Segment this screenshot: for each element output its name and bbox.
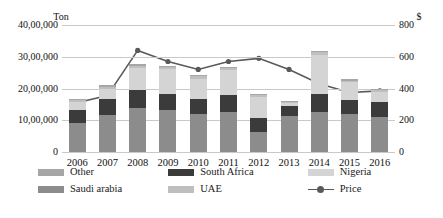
- bar-segment-uae: [341, 81, 358, 83]
- bar-segment-saudi-arabia: [371, 117, 388, 152]
- legend-label-south-africa: South Africa: [200, 166, 253, 178]
- bar-group: [281, 25, 298, 152]
- bar-segment-south-africa: [190, 99, 207, 114]
- bar-segment-other: [371, 89, 388, 90]
- legend-label-price: Price: [340, 183, 362, 195]
- bar-segment-saudi-arabia: [341, 114, 358, 152]
- bar-segment-south-africa: [341, 100, 358, 114]
- legend-swatch-other: [38, 169, 64, 176]
- bar-segment-uae: [99, 87, 116, 89]
- bar-segment-other: [311, 51, 328, 52]
- y-axis-tick-right: 0: [399, 147, 429, 157]
- chart-legend: Other South Africa Nigeria Saudi arabia …: [38, 166, 438, 200]
- bar-group: [129, 25, 146, 152]
- bar-segment-nigeria: [159, 69, 176, 94]
- bar-group: [311, 25, 328, 152]
- bar-segment-nigeria: [341, 82, 358, 100]
- legend-item-uae: UAE: [168, 183, 308, 195]
- bar-segment-south-africa: [99, 99, 116, 114]
- bar-segment-other: [341, 79, 358, 80]
- y-axis-tick-right: 800: [399, 20, 429, 30]
- bar-segment-south-africa: [69, 110, 86, 123]
- bar-segment-saudi-arabia: [159, 110, 176, 152]
- legend-item-nigeria: Nigeria: [308, 166, 438, 178]
- legend-swatch-uae: [168, 186, 194, 193]
- bar-group: [69, 25, 86, 152]
- bar-segment-nigeria: [69, 102, 86, 110]
- y-axis-tick-left: 30,00,000: [0, 52, 58, 62]
- bar-segment-other: [281, 101, 298, 102]
- bar-segment-nigeria: [190, 79, 207, 99]
- bar-segment-south-africa: [311, 94, 328, 112]
- legend-label-uae: UAE: [200, 183, 222, 195]
- legend-item-other: Other: [38, 166, 168, 178]
- legend-label-nigeria: Nigeria: [340, 166, 372, 178]
- bar-segment-saudi-arabia: [99, 115, 116, 152]
- bar-segment-south-africa: [129, 90, 146, 108]
- bar-group: [159, 25, 176, 152]
- bar-segment-south-africa: [250, 118, 267, 132]
- bar-segment-other: [220, 67, 237, 68]
- bar-segment-other: [159, 66, 176, 67]
- bar-segment-nigeria: [250, 97, 267, 118]
- bar-group: [341, 25, 358, 152]
- bar-segment-uae: [69, 100, 86, 102]
- bar-segment-south-africa: [371, 102, 388, 117]
- bar-segment-saudi-arabia: [311, 112, 328, 152]
- y-axis-tick-right: 400: [399, 84, 429, 94]
- legend-item-price: Price: [308, 183, 438, 195]
- bar-segment-uae: [371, 90, 388, 92]
- bar-segment-south-africa: [281, 106, 298, 117]
- bar-segment-saudi-arabia: [129, 108, 146, 152]
- bar-segment-saudi-arabia: [250, 132, 267, 152]
- bar-segment-nigeria: [129, 68, 146, 90]
- line-marker-icon: [308, 186, 334, 193]
- legend-row-2: Saudi arabia UAE Price: [38, 183, 438, 195]
- bar-segment-other: [250, 94, 267, 95]
- legend-swatch-south-africa: [168, 169, 194, 176]
- bar-segment-other: [69, 99, 86, 100]
- legend-swatch-nigeria: [308, 169, 334, 176]
- bar-group: [371, 25, 388, 152]
- bar-segment-saudi-arabia: [190, 114, 207, 152]
- bar-segment-nigeria: [311, 55, 328, 94]
- bar-segment-south-africa: [220, 95, 237, 113]
- legend-row-1: Other South Africa Nigeria: [38, 166, 438, 178]
- bar-segment-nigeria: [220, 70, 237, 94]
- bar-segment-uae: [220, 68, 237, 70]
- bar-group: [220, 25, 237, 152]
- bar-group: [250, 25, 267, 152]
- y-axis-tick-right: 600: [399, 52, 429, 62]
- bar-segment-saudi-arabia: [281, 116, 298, 152]
- legend-item-south-africa: South Africa: [168, 166, 308, 178]
- y-axis-tick-left: 0: [0, 147, 58, 157]
- legend-label-other: Other: [70, 166, 94, 178]
- bar-segment-uae: [250, 95, 267, 97]
- bar-segment-other: [129, 64, 146, 66]
- bar-segment-uae: [190, 76, 207, 78]
- bar-segment-nigeria: [281, 103, 298, 106]
- bar-segment-saudi-arabia: [69, 123, 86, 152]
- bar-group: [190, 25, 207, 152]
- y-axis-tick-right: 200: [399, 115, 429, 125]
- y-axis-tick-left: 10,00,000: [0, 115, 58, 125]
- bar-segment-nigeria: [371, 92, 388, 102]
- y-axis-tick-left: 40,00,000: [0, 20, 58, 30]
- bar-group: [99, 25, 116, 152]
- legend-label-saudi-arabia: Saudi arabia: [70, 183, 122, 195]
- bar-segment-uae: [159, 67, 176, 69]
- bar-segment-other: [99, 85, 116, 86]
- gridline: [62, 152, 395, 153]
- plot-area: 0010,00,00020020,00,00040030,00,00060040…: [62, 25, 395, 152]
- y-axis-tick-left: 20,00,000: [0, 84, 58, 94]
- bar-segment-saudi-arabia: [220, 112, 237, 152]
- stacked-bar-price-chart: Ton $ 0010,00,00020020,00,00040030,00,00…: [0, 0, 443, 218]
- legend-item-saudi-arabia: Saudi arabia: [38, 183, 168, 195]
- bar-segment-south-africa: [159, 94, 176, 110]
- bar-segment-other: [190, 75, 207, 76]
- bar-segment-uae: [129, 66, 146, 69]
- bar-segment-uae: [311, 52, 328, 54]
- bar-segment-nigeria: [99, 89, 116, 99]
- bar-segment-uae: [281, 102, 298, 103]
- legend-swatch-saudi-arabia: [38, 186, 64, 193]
